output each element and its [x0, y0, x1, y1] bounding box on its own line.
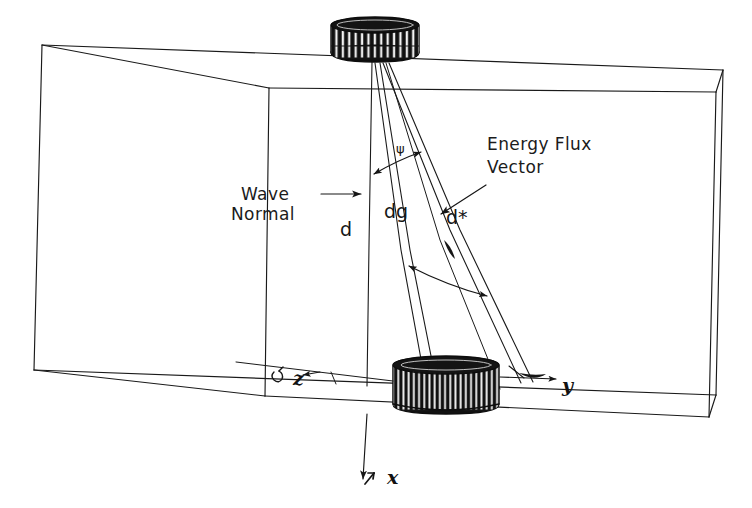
- box-edge-back-right-vertical: [716, 70, 723, 395]
- energy-flux-label-line1: Energy Flux: [487, 134, 592, 154]
- box-top-front-edge: [269, 88, 716, 92]
- label-d-star: d*: [446, 206, 468, 228]
- diagram-labels: Wave Normal Energy Flux Vector d dg d* ψ…: [231, 134, 592, 488]
- energy-flux-label-line2: Vector: [487, 157, 544, 177]
- lower-angle-arc: [409, 240, 487, 296]
- box-bottom-right-edge: [709, 395, 716, 417]
- x-axis-line: [363, 414, 367, 479]
- x-axis-arrow-glyph: [365, 473, 374, 484]
- z-axis-arrow-glyph: [272, 367, 283, 382]
- box-edge-front-left-vertical: [265, 88, 269, 396]
- wave-normal-label-line2: Normal: [231, 204, 295, 224]
- axis-label-z: z: [292, 367, 305, 389]
- figure-root: Wave Normal Energy Flux Vector d dg d* ψ…: [0, 0, 752, 508]
- wave-normal-label-line1: Wave: [241, 184, 289, 204]
- label-dg: dg: [384, 200, 408, 222]
- label-d: d: [340, 218, 352, 240]
- z-axis-line: [303, 372, 320, 375]
- box-edge-back-left-vertical: [34, 45, 42, 370]
- box-top-left-edge: [42, 45, 269, 88]
- axis-label-x: x: [386, 466, 399, 488]
- box-bottom-back-edge: [34, 370, 716, 395]
- ray-wave-normal-d: [367, 62, 372, 386]
- y-axis-line: [500, 377, 556, 379]
- ray-dg-right: [380, 63, 436, 381]
- bottom-transducer: [393, 356, 501, 414]
- top-transducer: [331, 17, 421, 62]
- label-psi: ψ: [396, 141, 405, 156]
- box-top-right-edge: [716, 70, 723, 92]
- axis-label-y: y: [561, 374, 575, 396]
- sample-box: [34, 45, 723, 417]
- box-edge-front-right-vertical: [709, 92, 716, 417]
- wave-diagram-canvas: Wave Normal Energy Flux Vector d dg d* ψ…: [0, 0, 752, 508]
- ray-dg-left: [375, 63, 425, 381]
